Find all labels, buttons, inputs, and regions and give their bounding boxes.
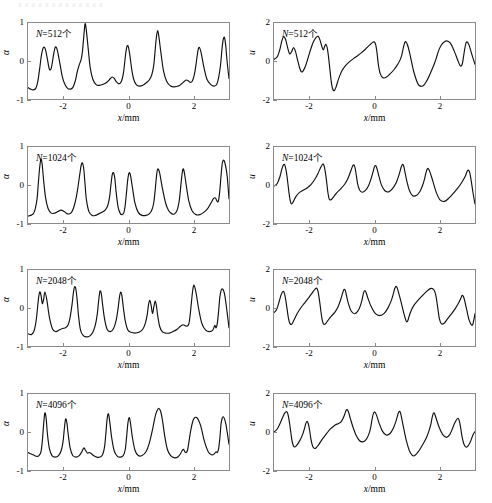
xtick-label: -2 [51,102,75,111]
xtick-mark [309,467,310,471]
xtick-label: 2 [182,349,206,358]
xtick-mark [194,467,195,471]
subplot-right-512: N=512个20-2u-202x/mm [246,9,492,133]
ytick-label: 1 [0,265,24,274]
ytick-mark [273,432,277,433]
ytick-label: -2 [246,96,270,105]
ytick-label: -1 [0,220,24,229]
xtick-mark [63,220,64,224]
ytick-label: 0 [246,181,270,190]
panel-label-left-4096: N=4096个 [36,397,77,411]
ytick-mark [273,100,277,101]
xtick-label: 0 [117,102,141,111]
ytick-mark [273,347,277,348]
xtick-mark [129,343,130,347]
xtick-mark [129,96,130,100]
xtick-mark [194,343,195,347]
signal-curve [28,285,229,337]
xtick-label: 0 [363,473,387,482]
ytick-label: 1 [0,142,24,151]
ytick-mark [273,224,277,225]
ytick-mark [273,308,277,309]
xtick-label: 2 [428,473,452,482]
y-axis-label: u [247,297,257,302]
x-axis-label: x/mm [27,237,230,247]
cropped-header-text: a a a a a a a a a a a a a [18,0,478,9]
y-axis-label: α [1,174,11,179]
ytick-label: 1 [0,389,24,398]
subplot-left-4096: N=4096个10-1α-202x/mm [0,380,246,503]
xtick-label: 0 [363,102,387,111]
ytick-label: -2 [246,467,270,476]
ytick-label: -2 [246,220,270,229]
xtick-mark [375,220,376,224]
ytick-mark [273,61,277,62]
subplot-left-512: N=512个10-1α-202x/mm [0,9,246,133]
xtick-label: 0 [363,349,387,358]
ytick-mark [273,269,277,270]
subplot-left-1024: N=1024个10-1α-202x/mm [0,133,246,257]
xtick-label: -2 [297,226,321,235]
panel-label-right-512: N=512个 [282,26,318,40]
y-axis-label: α [1,421,11,426]
ytick-label: 0 [0,181,24,190]
ytick-mark [27,185,31,186]
ytick-label: -2 [246,343,270,352]
ytick-mark [273,471,277,472]
panel-label-right-4096: N=4096个 [282,397,323,411]
ytick-label: -1 [0,343,24,352]
xtick-label: -2 [297,102,321,111]
ytick-mark [27,269,31,270]
xtick-mark [194,220,195,224]
xtick-mark [63,96,64,100]
ytick-mark [27,347,31,348]
subplot-grid: N=512个10-1α-202x/mmN=512个20-2u-202x/mmN=… [0,9,492,503]
xtick-mark [309,220,310,224]
ytick-label: 0 [0,57,24,66]
xtick-mark [129,467,130,471]
xtick-label: -2 [51,473,75,482]
xtick-label: 0 [117,226,141,235]
ytick-mark [273,22,277,23]
ytick-mark [27,471,31,472]
x-axis-label: x/mm [273,484,476,494]
signal-curve [274,163,475,203]
ytick-label: 2 [246,389,270,398]
xtick-label: 0 [117,349,141,358]
ytick-label: 2 [246,18,270,27]
panel-label-right-2048: N=2048个 [282,273,323,287]
signal-curve [28,408,229,458]
ytick-label: 0 [246,57,270,66]
signal-curve [274,36,475,91]
xtick-label: 2 [428,102,452,111]
ytick-mark [27,100,31,101]
xtick-mark [63,467,64,471]
xtick-label: 2 [428,349,452,358]
ytick-mark [27,432,31,433]
ytick-label: -1 [0,467,24,476]
subplot-right-2048: N=2048个20-2u-202x/mm [246,256,492,380]
ytick-mark [27,393,31,394]
ytick-label: 1 [0,18,24,27]
signal-curve [274,409,475,455]
xtick-label: 0 [117,473,141,482]
xtick-label: -2 [51,226,75,235]
figure-panel-grid: a a a a a a a a a a a a a N=512个10-1α-20… [0,0,492,503]
xtick-mark [309,96,310,100]
xtick-mark [440,96,441,100]
ytick-label: -1 [0,96,24,105]
ytick-mark [27,146,31,147]
xtick-label: 0 [363,226,387,235]
signal-curve [274,286,475,325]
subplot-right-4096: N=4096个20-2u-202x/mm [246,380,492,503]
xtick-label: 2 [428,226,452,235]
ytick-label: 0 [0,428,24,437]
xtick-mark [129,220,130,224]
ytick-mark [27,308,31,309]
signal-curve [28,159,229,216]
ytick-mark [273,393,277,394]
xtick-mark [440,220,441,224]
panel-label-right-1024: N=1024个 [282,150,323,164]
xtick-label: -2 [51,349,75,358]
ytick-label: 2 [246,142,270,151]
